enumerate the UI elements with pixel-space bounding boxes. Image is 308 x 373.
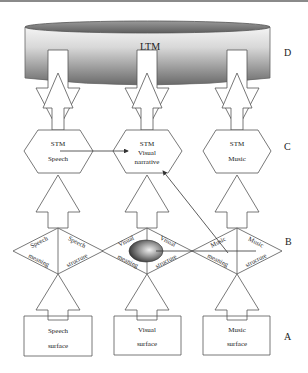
stm-speech: STM Speech	[24, 130, 93, 173]
svg-text:surface: surface	[227, 340, 247, 348]
surface-music: Music surface	[203, 316, 270, 355]
svg-text:Visual: Visual	[138, 149, 156, 157]
diagram: LTM D C B A STM Speech STM Visual narrat…	[0, 0, 308, 373]
svg-text:surface: surface	[137, 340, 157, 348]
level-label-b: B	[285, 236, 292, 247]
svg-text:STM: STM	[140, 140, 155, 148]
svg-text:Speech: Speech	[48, 327, 69, 335]
b-to-c-arrows	[36, 175, 259, 228]
svg-text:surface: surface	[48, 342, 68, 350]
svg-text:Visual: Visual	[138, 326, 156, 334]
stm-music: STM Music	[203, 130, 271, 173]
a-to-b-arrows	[36, 274, 259, 316]
diamond-speech	[13, 228, 103, 274]
surface-visual: Visual surface	[114, 316, 181, 355]
surface-speech: Speech surface	[24, 316, 92, 356]
svg-text:STM: STM	[51, 140, 66, 148]
level-label-c: C	[284, 141, 291, 152]
svg-text:STM: STM	[230, 140, 245, 148]
svg-text:Speech: Speech	[48, 155, 69, 163]
svg-text:Music: Music	[228, 155, 246, 163]
svg-text:Music: Music	[228, 326, 246, 334]
stm-visual-narrative: STM Visual narrative	[113, 130, 182, 173]
level-label-a: A	[284, 331, 292, 342]
level-label-d: D	[284, 47, 291, 58]
svg-text:narrative: narrative	[135, 158, 160, 166]
